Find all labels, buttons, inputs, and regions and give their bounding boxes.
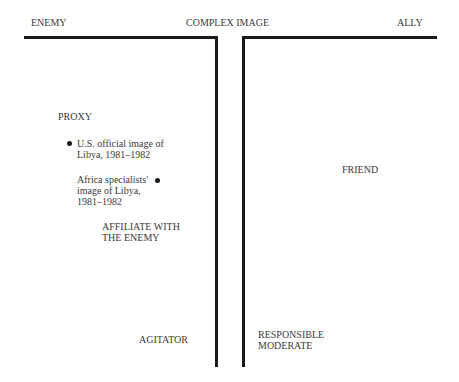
us-official-image-marker <box>67 141 72 146</box>
us-official-image-label: U.S. official image of Libya, 1981–1982 <box>77 138 164 160</box>
africa-specialists-image-label: Africa specialists' image of Libya, 1981… <box>77 174 148 207</box>
friend-label: FRIEND <box>342 164 378 175</box>
affiliate-with-enemy-label: AFFILIATE WITH THE ENEMY <box>102 221 180 243</box>
agitator-label: AGITATOR <box>139 334 188 345</box>
complex-image-label: COMPLEX IMAGE <box>186 17 269 28</box>
proxy-label: PROXY <box>58 111 92 122</box>
right-vertical-divider <box>242 36 245 367</box>
africa-specialists-image-marker <box>155 178 160 183</box>
right-top-line <box>242 36 437 39</box>
responsible-moderate-label: RESPONSIBLE MODERATE <box>258 329 324 351</box>
left-vertical-divider <box>215 36 218 367</box>
enemy-pole-label: ENEMY <box>31 17 67 28</box>
ally-pole-label: ALLY <box>397 17 423 28</box>
left-top-line <box>24 36 218 39</box>
